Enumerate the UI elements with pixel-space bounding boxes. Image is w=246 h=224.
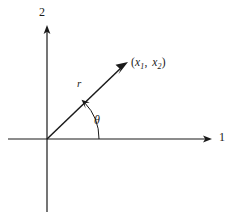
point-label-x2-subscript: 2 <box>158 62 162 71</box>
horizontal-axis-label: 1 <box>219 131 225 143</box>
point-label-comma: , <box>145 56 148 68</box>
point-coordinates-label: (x1, x2) <box>131 57 166 69</box>
radius-label: r <box>77 78 81 89</box>
diagram-canvas <box>0 0 246 224</box>
point-label-x2-symbol: x <box>152 56 157 68</box>
point-label-x1-subscript: 1 <box>140 62 144 71</box>
theta-angle-label: θ <box>94 114 100 126</box>
polar-coordinate-figure: 2 1 r θ (x1, x2) <box>0 0 246 224</box>
vertical-axis-label: 2 <box>39 6 45 18</box>
point-label-close-paren: ) <box>162 56 166 68</box>
